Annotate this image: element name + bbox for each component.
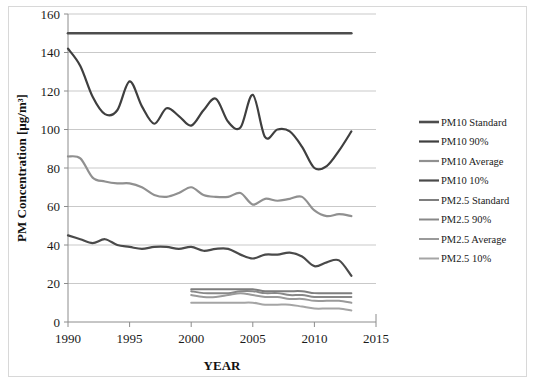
x-axis-ticks: 199019952000200520102015 — [55, 322, 389, 346]
series-group — [68, 33, 351, 310]
x-tick-label: 2015 — [363, 331, 389, 346]
legend-label-0: PM10 Standard — [441, 117, 507, 128]
y-axis-title: PM Concentration [µg/m³] — [14, 94, 29, 242]
chart-canvas: 0204060801001201401601990199520002005201… — [0, 0, 537, 387]
x-tick-label: 1990 — [55, 331, 81, 346]
y-axis-ticks: 020406080100120140160 — [41, 7, 69, 330]
y-tick-label: 60 — [47, 199, 60, 214]
series-line-1 — [68, 49, 351, 170]
y-tick-label: 20 — [47, 276, 60, 291]
x-tick-label: 2010 — [301, 331, 327, 346]
y-tick-label: 140 — [41, 45, 61, 60]
y-tick-label: 120 — [41, 84, 61, 99]
y-tick-label: 80 — [47, 161, 60, 176]
x-tick-label: 2000 — [178, 331, 204, 346]
x-axis-title: YEAR — [204, 358, 241, 373]
series-line-2 — [68, 156, 351, 216]
legend-label-2: PM10 Average — [441, 156, 504, 167]
y-tick-label: 40 — [47, 238, 60, 253]
legend: PM10 StandardPM10 90%PM10 AveragePM10 10… — [419, 117, 510, 264]
legend-label-4: PM2.5 Standard — [441, 195, 510, 206]
x-tick-label: 1995 — [117, 331, 143, 346]
pm-concentration-line-chart: 0204060801001201401601990199520002005201… — [0, 0, 537, 387]
legend-label-3: PM10 10% — [441, 175, 489, 186]
y-tick-label: 160 — [41, 7, 61, 22]
series-line-7 — [191, 303, 351, 311]
y-tick-label: 100 — [41, 122, 61, 137]
legend-label-7: PM2.5 10% — [441, 253, 491, 264]
legend-label-6: PM2.5 Average — [441, 234, 506, 245]
legend-label-5: PM2.5 90% — [441, 214, 491, 225]
y-tick-label: 0 — [54, 315, 61, 330]
x-tick-label: 2005 — [240, 331, 266, 346]
series-line-3 — [68, 235, 351, 275]
legend-label-1: PM10 90% — [441, 136, 489, 147]
